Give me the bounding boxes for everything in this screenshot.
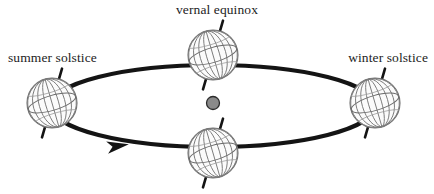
earth-globe-lower: [183, 119, 243, 188]
orbit-diagram: [0, 0, 434, 194]
sun-icon: [207, 97, 220, 110]
earth-globe-vernal-equinox: [183, 21, 243, 90]
label-winter-solstice: winter solstice: [348, 50, 428, 66]
seasons-orbit-figure: vernal equinox summer solstice winter so…: [0, 0, 434, 194]
label-summer-solstice: summer solstice: [8, 50, 97, 66]
label-vernal-equinox: vernal equinox: [0, 2, 434, 18]
